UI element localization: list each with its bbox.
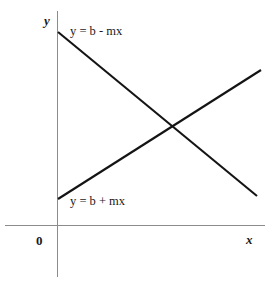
- series-label-decreasing: y = b - mx: [70, 25, 122, 38]
- series-line-decreasing: [58, 32, 257, 196]
- origin-label: 0: [36, 234, 43, 247]
- series-label-increasing: y = b + mx: [70, 195, 125, 208]
- y-axis-label: y: [44, 14, 50, 27]
- line-chart-figure: y x 0 y = b - mx y = b + mx: [0, 0, 277, 289]
- x-axis-label: x: [246, 233, 253, 246]
- series-line-increasing: [58, 70, 261, 199]
